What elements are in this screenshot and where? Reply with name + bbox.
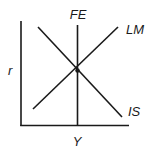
fe-label: FE: [70, 7, 87, 22]
y-axis-label: r: [8, 63, 13, 78]
equilibrium-point: [75, 68, 79, 72]
lm-curve: [33, 27, 118, 109]
is-label: IS: [128, 104, 141, 119]
x-axis-label: Y: [73, 134, 83, 149]
is-lm-fe-diagram: FE LM IS r Y: [0, 0, 148, 154]
lm-label: LM: [126, 22, 144, 37]
is-curve: [38, 27, 122, 117]
